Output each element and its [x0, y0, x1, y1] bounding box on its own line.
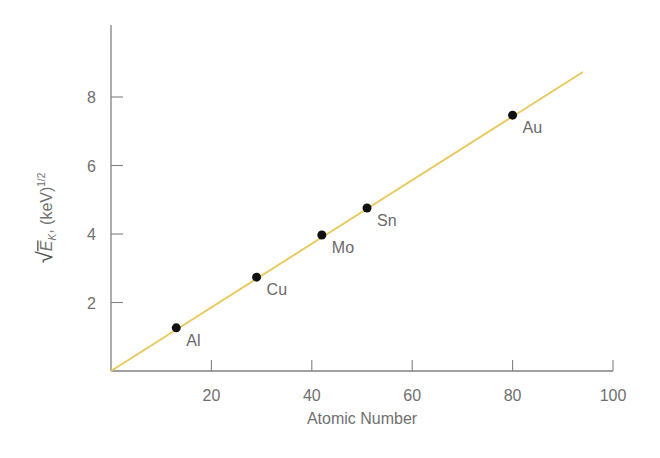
data-point-cu: [252, 273, 261, 282]
x-tick-label: 100: [600, 387, 627, 404]
point-label-au: Au: [523, 119, 543, 136]
y-axis-radicand: E: [38, 240, 55, 251]
y-tick-label: 4: [87, 226, 96, 243]
x-tick-label: 60: [403, 387, 421, 404]
data-point-au: [508, 111, 517, 120]
x-axis-title: Atomic Number: [307, 410, 418, 427]
y-tick-label: 2: [87, 295, 96, 312]
chart: 204060801002468 AlCuMoSnAu Atomic Number…: [0, 0, 660, 458]
y-axis-radical: √: [32, 250, 57, 263]
point-label-cu: Cu: [267, 281, 287, 298]
data-point-al: [172, 323, 181, 332]
point-label-mo: Mo: [332, 239, 354, 256]
x-tick-label: 20: [203, 387, 221, 404]
y-tick-label: 6: [87, 158, 96, 175]
x-tick-label: 40: [303, 387, 321, 404]
y-tick-label: 8: [87, 89, 96, 106]
y-axis-exponent: 1/2: [36, 172, 47, 186]
x-tick-label: 80: [504, 387, 522, 404]
svg-text:√EK, (keV)1/2: √EK, (keV)1/2: [32, 172, 58, 263]
y-axis-title: √EK, (keV)1/2: [32, 172, 58, 263]
y-axis-unit: , (keV): [38, 187, 55, 234]
data-point-mo: [317, 231, 326, 240]
point-label-al: Al: [186, 332, 200, 349]
data-points: AlCuMoSnAu: [172, 111, 542, 349]
point-label-sn: Sn: [377, 212, 397, 229]
data-point-sn: [363, 203, 372, 212]
